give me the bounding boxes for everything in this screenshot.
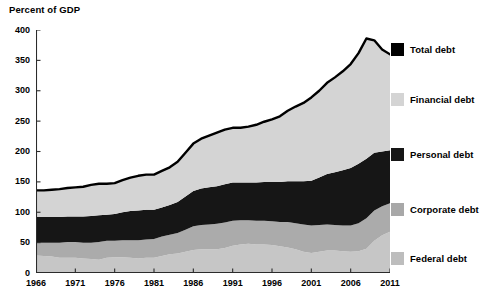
x-tick-label: 1986 <box>173 279 213 288</box>
chart-figure: Percent of GDP 050100150200250300350400 … <box>0 0 483 299</box>
legend-swatch-icon <box>391 252 404 265</box>
legend-swatch-icon <box>391 203 404 216</box>
legend-swatch-icon <box>391 93 404 106</box>
legend-item-total-debt[interactable]: Total debt <box>391 42 455 56</box>
legend-label: Personal debt <box>410 149 473 160</box>
legend-item-financial-debt[interactable]: Financial debt <box>391 92 475 106</box>
legend-label: Corporate debt <box>410 204 479 215</box>
area-bands <box>36 39 390 274</box>
legend-item-federal-debt[interactable]: Federal debt <box>391 251 467 265</box>
x-tick-label: 1966 <box>16 279 56 288</box>
legend-item-personal-debt[interactable]: Personal debt <box>391 147 473 161</box>
x-tick-label: 1981 <box>134 279 174 288</box>
chart-legend: Total debtFinancial debtPersonal debtCor… <box>391 30 483 273</box>
x-tick-label: 1971 <box>55 279 95 288</box>
legend-swatch-icon <box>391 148 404 161</box>
x-tick-label: 1991 <box>213 279 253 288</box>
stacked-area-chart <box>36 30 390 273</box>
x-tick-label: 1976 <box>95 279 135 288</box>
legend-item-corporate-debt[interactable]: Corporate debt <box>391 202 479 216</box>
x-tick-label: 2006 <box>331 279 371 288</box>
x-tick-label: 2001 <box>291 279 331 288</box>
legend-label: Financial debt <box>410 94 475 105</box>
x-tick-label: 1996 <box>252 279 292 288</box>
x-tick-label: 2011 <box>370 279 410 288</box>
legend-label: Total debt <box>410 44 455 55</box>
legend-swatch-icon <box>391 43 404 56</box>
legend-label: Federal debt <box>410 253 467 264</box>
plot-area <box>36 30 390 273</box>
